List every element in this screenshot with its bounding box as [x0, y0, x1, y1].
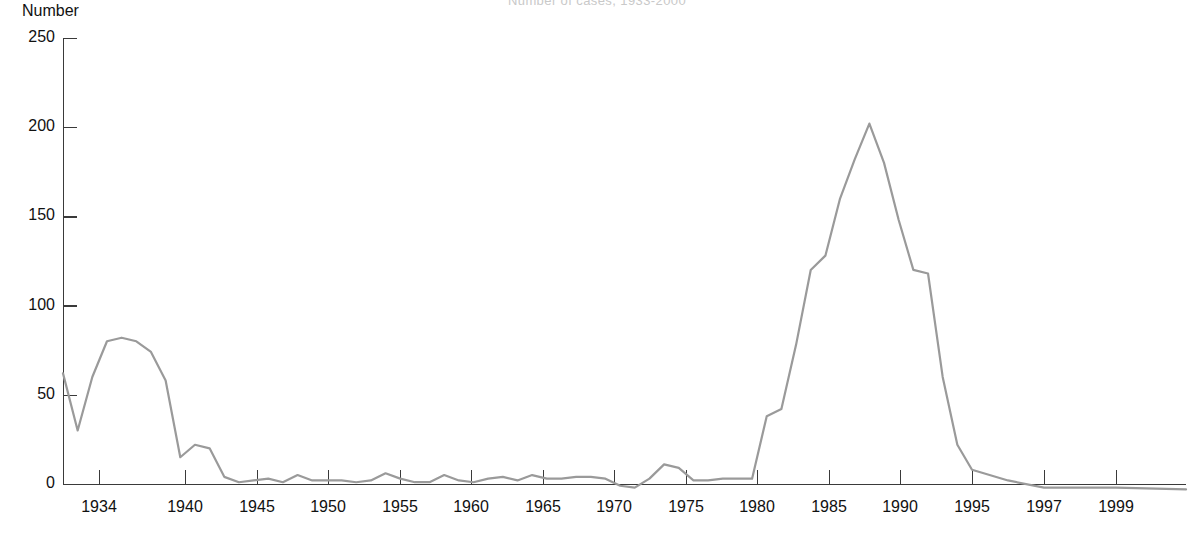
x-axis-tick-label: 1945: [225, 498, 289, 516]
y-axis-tick-label: 200: [9, 117, 55, 135]
x-axis-tick-label: 1975: [654, 498, 718, 516]
x-axis-tick-label: 1997: [1012, 498, 1076, 516]
x-axis-tick-label: 1990: [868, 498, 932, 516]
x-axis-tick-label: 1980: [725, 498, 789, 516]
chart-plot-area: [0, 0, 1194, 544]
y-axis-tick-label: 150: [9, 206, 55, 224]
chart-axes: [63, 38, 1186, 485]
y-axis-tick-label: 100: [9, 296, 55, 314]
chart-series: [63, 124, 1186, 490]
x-axis-tick-label: 1999: [1084, 498, 1148, 516]
x-axis-tick-label: 1934: [67, 498, 131, 516]
y-axis-tick-label: 0: [9, 474, 55, 492]
data-line-number: [63, 124, 1186, 490]
x-axis-tick-label: 1970: [582, 498, 646, 516]
x-axis-tick-label: 1955: [368, 498, 432, 516]
x-axis-tick-label: 1960: [439, 498, 503, 516]
y-axis-tick-label: 250: [9, 28, 55, 46]
x-axis-tick-label: 1965: [511, 498, 575, 516]
y-axis-tick-label: 50: [9, 385, 55, 403]
x-axis-tick-label: 1940: [153, 498, 217, 516]
x-axis-tick-label: 1950: [296, 498, 360, 516]
x-axis-tick-label: 1985: [797, 498, 861, 516]
x-axis-tick-label: 1995: [940, 498, 1004, 516]
chart-root: Number of cases, 1933-2000 Number 050100…: [0, 0, 1194, 544]
